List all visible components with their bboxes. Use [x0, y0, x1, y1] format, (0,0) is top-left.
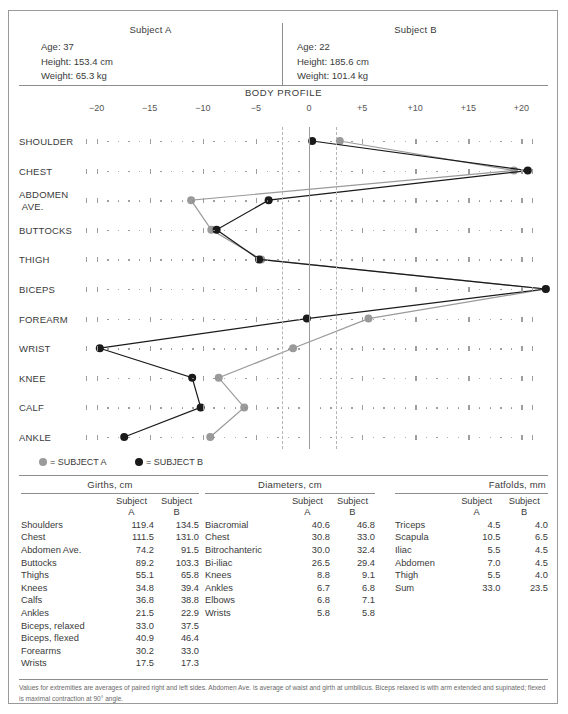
grid-dot [436, 407, 437, 408]
reference-line-dashed [282, 127, 283, 449]
grid-dot [118, 348, 119, 349]
grid-dot [405, 171, 406, 172]
grid-dot [86, 257, 87, 262]
grid-dot [330, 407, 331, 408]
grid-dot [468, 376, 469, 381]
value-subject-b: 38.8 [154, 594, 199, 607]
grid-dot [128, 171, 129, 172]
reference-line-dashed [336, 127, 337, 449]
chart-dot-grid-row [19, 319, 548, 320]
grid-dot [160, 319, 161, 320]
diameters-table: Diameters, cm Subject A Subject B Biacro… [205, 479, 375, 620]
grid-dot [107, 348, 108, 349]
grid-dot [86, 317, 87, 322]
value-subject-a: 40.6 [285, 519, 330, 532]
grid-dot [182, 200, 183, 201]
grid-dot [532, 169, 533, 174]
grid-dot [128, 348, 129, 349]
grid-dot [500, 407, 501, 408]
grid-dot [490, 348, 491, 349]
diameters-grid: Subject A Subject B Biacromial40.646.8Ch… [205, 496, 375, 620]
table-row: Ankles21.522.9 [21, 607, 199, 620]
grid-dot [150, 139, 151, 144]
chart-plot-area: SHOULDERCHESTABDOMEN AVE.BUTTOCKSTHIGHBI… [19, 119, 548, 453]
grid-dot [256, 405, 257, 410]
grid-dot [256, 257, 257, 262]
grid-dot [192, 230, 193, 231]
grid-dot [213, 348, 214, 349]
grid-dot [500, 319, 501, 320]
grid-dot [383, 200, 384, 201]
grid-dot [468, 346, 469, 351]
grid-dot [500, 378, 501, 379]
grid-dot [532, 257, 533, 262]
chart-title: BODY PROFILE [19, 87, 548, 98]
row-label: Ankles [205, 582, 285, 595]
x-tick-label: +15 [461, 103, 476, 113]
grid-dot [383, 378, 384, 379]
grid-dot [97, 435, 98, 440]
grid-dot [383, 319, 384, 320]
grid-dot [267, 407, 268, 408]
grid-dot [86, 169, 87, 174]
grid-dot [97, 317, 98, 322]
grid-dot [415, 257, 416, 262]
value-subject-a: 7.0 [453, 557, 501, 570]
value-subject-a: 34.8 [109, 582, 154, 595]
grid-dot [128, 230, 129, 231]
grid-dot [150, 376, 151, 381]
grid-dot [267, 171, 268, 172]
grid-dot [330, 230, 331, 231]
grid-dot [309, 139, 310, 144]
grid-dot [86, 228, 87, 233]
grid-dot [309, 257, 310, 262]
row-label: Chest [21, 531, 109, 544]
grid-dot [436, 171, 437, 172]
grid-dot [245, 259, 246, 260]
row-label: Abdomen [395, 557, 453, 570]
grid-dot [532, 346, 533, 351]
grid-dot [288, 200, 289, 201]
fatfolds-grid: Subject A Subject B Triceps4.54.0Scapula… [395, 496, 548, 594]
grid-dot [298, 319, 299, 320]
row-label: Bitrochanteric [205, 544, 285, 557]
chart-dot-grid-row [19, 378, 548, 379]
row-label: Sum [395, 582, 453, 595]
grid-dot [150, 198, 151, 203]
grid-dot [468, 317, 469, 322]
row-label: Knees [21, 582, 109, 595]
grid-dot [521, 139, 522, 144]
grid-dot [521, 405, 522, 410]
row-label: Bi-iliac [205, 557, 285, 570]
grid-dot [362, 257, 363, 262]
grid-dot [383, 230, 384, 231]
grid-dot [351, 259, 352, 260]
grid-dot [362, 198, 363, 203]
grid-dot [267, 348, 268, 349]
fatfolds-caption: Fatfolds, mm [395, 479, 548, 493]
diameters-col-a-l2: A [285, 507, 330, 518]
grid-dot [256, 317, 257, 322]
grid-dot [288, 171, 289, 172]
value-subject-b: 6.5 [500, 531, 548, 544]
grid-dot [521, 435, 522, 440]
table-row: Bitrochanteric30.032.4 [205, 544, 375, 557]
value-subject-a: 10.5 [453, 531, 501, 544]
grid-dot [203, 228, 204, 233]
grid-dot [107, 171, 108, 172]
grid-dot [97, 228, 98, 233]
grid-dot [277, 171, 278, 172]
grid-dot [511, 348, 512, 349]
grid-dot [330, 259, 331, 260]
table-row: Chest111.5131.0 [21, 531, 199, 544]
grid-dot [468, 198, 469, 203]
grid-dot [245, 378, 246, 379]
subject-a-title: Subject A [19, 23, 282, 35]
grid-dot [160, 230, 161, 231]
grid-dot [415, 346, 416, 351]
grid-dot [107, 319, 108, 320]
table-row: Buttocks89.2103.3 [21, 557, 199, 570]
grid-dot [490, 319, 491, 320]
legend-marker-icon [39, 458, 47, 466]
grid-dot [458, 200, 459, 201]
